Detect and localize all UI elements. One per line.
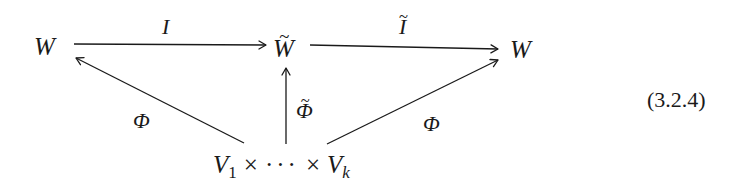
arrow-I xyxy=(74,44,266,45)
label-I-text: I xyxy=(162,14,169,39)
Vk-subscript: k xyxy=(342,163,350,182)
arrow-Phi-right xyxy=(327,60,498,144)
tilde-accent: ~ xyxy=(279,28,289,47)
label-Phi-tilde-glyph: ~ Φ xyxy=(296,100,313,122)
node-W-right: W xyxy=(510,37,531,62)
label-Phi-left-text: Φ xyxy=(133,108,150,133)
tilde-accent: ~ xyxy=(301,93,310,110)
label-Phi-tilde: ~ Φ xyxy=(296,100,313,122)
node-W-tilde: ~ W xyxy=(273,36,294,61)
node-product: V1×···×Vk xyxy=(213,152,350,181)
cdots: ··· xyxy=(265,151,299,178)
commutative-diagram: W ~ W W V1×···×Vk I ~ I Φ ~ Φ Φ (3.2.4) xyxy=(0,0,749,191)
equation-number: (3.2.4) xyxy=(647,89,706,111)
node-W-tilde-glyph: ~ W xyxy=(273,36,294,61)
times-1: × xyxy=(244,151,258,178)
label-Phi-right: Φ xyxy=(423,113,440,135)
label-Phi-left: Φ xyxy=(133,110,150,132)
arrow-I-tilde xyxy=(310,45,498,49)
V1: V xyxy=(213,151,228,178)
label-Phi-right-text: Φ xyxy=(423,111,440,136)
node-W-left: W xyxy=(34,34,55,59)
V1-subscript: 1 xyxy=(228,163,237,182)
diagram-arrows xyxy=(0,0,749,191)
node-W-right-text: W xyxy=(510,36,531,63)
label-I: I xyxy=(162,16,169,38)
Vk: V xyxy=(327,151,342,178)
label-I-tilde-glyph: ~ I xyxy=(399,16,406,38)
times-2: × xyxy=(306,151,320,178)
node-W-left-text: W xyxy=(34,33,55,60)
tilde-accent: ~ xyxy=(399,9,408,26)
arrow-Phi-left xyxy=(76,58,244,143)
label-I-tilde: ~ I xyxy=(399,16,406,38)
